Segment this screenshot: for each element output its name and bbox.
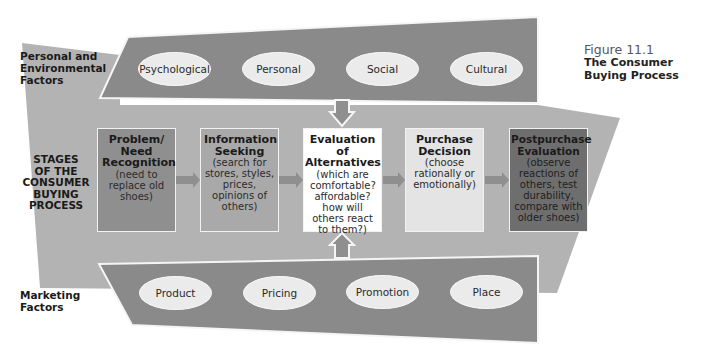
stage-postpurchase-evaluation: Postpurchase Evaluation (observe reactio…	[509, 128, 588, 232]
oval-label: Personal	[256, 63, 301, 75]
label-line: CONSUMER	[18, 177, 94, 189]
stage-description: (choose rationally or emotionally)	[406, 157, 483, 190]
stage-title: Information Seeking	[201, 134, 278, 157]
label-line: Personal and	[20, 50, 106, 62]
marketing-factors-label: Marketing Factors	[20, 289, 80, 313]
label-line: Factors	[20, 301, 80, 313]
stage-purchase-decision: Purchase Decision (choose rationally or …	[405, 128, 484, 232]
stage-description: (observe reactions of others, test durab…	[510, 157, 587, 223]
figure-number: Figure 11.1	[584, 43, 714, 57]
stages-of-consumer-buying-process-label: STAGES OF THE CONSUMER BUYING PROCESS	[18, 154, 94, 212]
label-line: Environmental	[20, 62, 106, 74]
personal-factor-psychological: Psychological	[138, 52, 211, 86]
figure-caption: Figure 11.1 The Consumer Buying Process	[584, 43, 714, 82]
stage-evaluation-of-alternatives: Evaluation of Alternatives (which are co…	[303, 128, 382, 232]
label-line: STAGES	[18, 154, 94, 166]
stage-description: (search for stores, styles, prices, opin…	[201, 157, 278, 212]
marketing-factor-pricing: Pricing	[243, 276, 316, 310]
label-line: Factors	[20, 74, 106, 86]
figure-title: The Consumer Buying Process	[584, 57, 714, 82]
stage-title: Purchase Decision	[406, 134, 483, 157]
stage-description: (need to replace old shoes)	[98, 169, 175, 202]
marketing-factor-promotion: Promotion	[346, 275, 419, 309]
stage-description: (which are comfortable? affordable? how …	[304, 169, 381, 235]
personal-factor-personal: Personal	[242, 52, 315, 86]
stage-title: Evaluation of Alternatives	[304, 134, 381, 169]
personal-environmental-factors-label: Personal and Environmental Factors	[20, 50, 106, 86]
marketing-factor-product: Product	[139, 276, 212, 310]
oval-label: Place	[473, 286, 501, 298]
stage-information-seeking: Information Seeking (search for stores, …	[200, 128, 279, 232]
label-line: PROCESS	[18, 200, 94, 212]
personal-factor-social: Social	[346, 52, 419, 86]
oval-label: Product	[156, 287, 196, 299]
stage-problem-need-recognition: Problem/ Need Recognition (need to repla…	[97, 128, 176, 232]
oval-label: Promotion	[356, 286, 409, 298]
oval-label: Cultural	[466, 63, 507, 75]
personal-factor-cultural: Cultural	[450, 52, 523, 86]
marketing-factor-place: Place	[450, 275, 523, 309]
stage-title: Problem/ Need Recognition	[98, 134, 175, 169]
oval-label: Social	[367, 63, 398, 75]
label-line: Marketing	[20, 289, 80, 301]
stage-title: Postpurchase Evaluation	[510, 134, 587, 157]
oval-label: Psychological	[139, 63, 210, 75]
oval-label: Pricing	[262, 287, 297, 299]
